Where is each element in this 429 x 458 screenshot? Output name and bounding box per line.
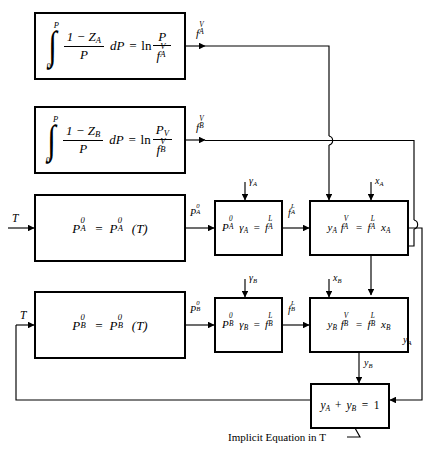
integral-equation-b-box: ∫ P 0 1 − ZB P dP = ln PV fVB xyxy=(34,106,186,174)
stream-label-pb0: P0B xyxy=(190,303,202,315)
mole-fraction-sum-text: yA + yB = 1 xyxy=(320,399,379,413)
connector-fav-route xyxy=(205,46,329,136)
input-label-gamma-b: γB xyxy=(249,273,257,284)
integral-sign-a: ∫ P 0 xyxy=(47,24,60,68)
activity-coefficient-b-text: P0B γB = fLB xyxy=(222,317,275,333)
input-label-gamma-a: γA xyxy=(249,176,257,187)
integral-sign-b: ∫ P 0 xyxy=(46,118,59,162)
activity-coefficient-b-box: P0B γB = fLB xyxy=(214,297,283,353)
log-argument-fraction-a: P fVA xyxy=(153,30,171,62)
log-a: ln xyxy=(141,39,151,53)
stream-label-fbl: fLB xyxy=(288,303,297,315)
integrand-fraction-a: 1 − ZA P xyxy=(64,30,104,62)
input-label-xb: xB xyxy=(333,273,341,284)
stream-label-fal: fLA xyxy=(288,206,297,218)
stream-label-fav: fVA xyxy=(196,26,206,39)
input-label-temperature-bottom: T xyxy=(20,310,26,322)
stream-label-fbv: fVB xyxy=(196,120,206,133)
differential-b: dP xyxy=(109,133,123,147)
input-label-xa: xA xyxy=(375,176,383,187)
equilibrium-a-box: yA fVA = fLA xA xyxy=(309,200,409,256)
process-flow-diagram: ∫ P 0 1 − ZA P dP = ln P fVA ∫ P 0 xyxy=(0,0,429,458)
equilibrium-b-box: yB fVB = fLB xB xyxy=(309,297,409,353)
stream-label-yb: yB xyxy=(364,358,372,369)
activity-coefficient-a-text: P0A γA = fLA xyxy=(222,220,275,236)
vapor-pressure-b-text: P0B = P0B (T) xyxy=(72,317,147,333)
log-argument-fraction-b: PV fVB xyxy=(153,123,172,157)
implicit-equation-caption: Implicit Equation in T xyxy=(228,432,326,443)
log-b: ln xyxy=(141,133,151,147)
stream-label-ya: yA xyxy=(403,335,411,346)
integral-equation-a-box: ∫ P 0 1 − ZA P dP = ln P fVA xyxy=(34,12,186,80)
stream-label-pa0: P0A xyxy=(190,206,202,218)
vapor-pressure-a-box: P0A = P0A (T) xyxy=(34,194,186,262)
differential-a: dP xyxy=(110,39,124,53)
integrand-fraction-b: 1 − ZB P xyxy=(63,124,103,156)
implicit-equation-caption-text: Implicit Equation in T xyxy=(228,431,326,443)
activity-coefficient-a-box: P0A γA = fLA xyxy=(214,200,283,256)
vapor-pressure-b-box: P0B = P0B (T) xyxy=(34,291,186,359)
equilibrium-b-text: yB fVB = fLB xB xyxy=(328,317,391,333)
mole-fraction-sum-box: yA + yB = 1 xyxy=(310,383,390,429)
input-label-temperature-top: T xyxy=(12,213,18,225)
integral-equation-a-text: ∫ P 0 1 − ZA P dP = ln P fVA xyxy=(47,24,173,68)
vapor-pressure-a-text: P0A = P0A (T) xyxy=(72,220,147,236)
equilibrium-a-text: yA fVA = fLA xA xyxy=(328,220,391,236)
integral-equation-b-text: ∫ P 0 1 − ZB P dP = ln PV fVB xyxy=(46,118,174,162)
